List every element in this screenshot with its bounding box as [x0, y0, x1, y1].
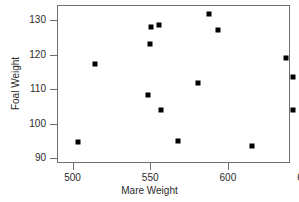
x-tick-label: 650	[297, 172, 299, 183]
x-tick-label: 500	[64, 172, 81, 183]
x-axis-title: Mare Weight	[0, 185, 299, 196]
data-point	[290, 75, 295, 80]
plot-area	[58, 6, 289, 162]
data-point	[93, 61, 98, 66]
data-point	[149, 25, 154, 30]
x-tick-mark	[73, 163, 74, 170]
data-point	[250, 144, 255, 149]
y-tick-mark	[50, 55, 57, 56]
plot-frame	[57, 5, 290, 163]
data-point	[146, 93, 151, 98]
x-tick-mark	[228, 163, 229, 170]
x-tick-mark	[150, 163, 151, 170]
y-tick-mark	[50, 158, 57, 159]
scatter-plot-figure: 90100110120130 500550600650 Mare Weight …	[0, 0, 299, 202]
data-point	[195, 80, 200, 85]
y-tick-label: 110	[30, 84, 46, 94]
y-tick-label: 120	[29, 50, 46, 60]
data-point	[156, 23, 161, 28]
data-point	[158, 108, 163, 113]
y-axis-title: Foal Weight	[10, 24, 21, 144]
y-tick-mark	[50, 124, 57, 125]
data-point	[76, 139, 81, 144]
data-point	[284, 55, 289, 60]
data-point	[206, 11, 211, 16]
y-tick-mark	[50, 20, 57, 21]
x-tick-label: 600	[220, 172, 237, 183]
data-point	[290, 108, 295, 113]
data-point	[175, 139, 180, 144]
y-tick-label: 100	[29, 119, 46, 129]
data-point	[215, 27, 220, 32]
y-tick-mark	[50, 89, 57, 90]
x-axis: 500550600650	[0, 163, 299, 202]
y-tick-label: 90	[35, 153, 46, 163]
y-tick-label: 130	[29, 15, 46, 25]
x-tick-label: 550	[142, 172, 159, 183]
data-point	[147, 41, 152, 46]
